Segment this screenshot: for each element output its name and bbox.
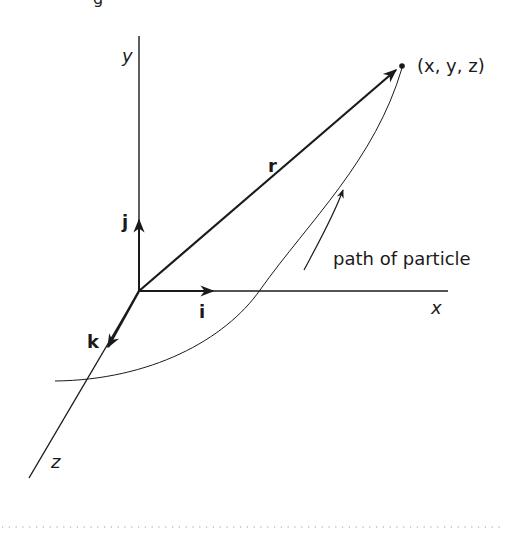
path-of-particle-label: path of particle <box>333 248 471 269</box>
point-coordinates-label: (x, y, z) <box>417 55 485 76</box>
unit-vector-i-label: i <box>199 301 205 322</box>
particle-path-curve <box>55 68 402 381</box>
unit-vector-k-label: k <box>87 331 100 352</box>
x-axis-label: x <box>430 297 442 318</box>
y-axis-label: y <box>121 45 133 66</box>
unit-vector-j-label: j <box>121 211 128 232</box>
title-fragment: g <box>93 0 103 8</box>
unit-vector-k-arrow <box>108 291 139 347</box>
particle-point <box>399 63 405 69</box>
position-vector-label: r <box>268 155 277 176</box>
particle-position-diagram: g y x z j i k r (x, y, z) path of partic… <box>0 0 505 533</box>
z-axis-label: z <box>50 451 61 472</box>
